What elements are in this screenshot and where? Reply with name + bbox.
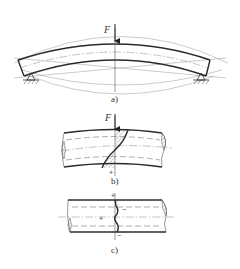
sign-plus-middle: + xyxy=(99,215,103,222)
guide-arc xyxy=(14,37,228,64)
stress-hatch xyxy=(102,130,128,168)
segment-top-edge xyxy=(64,130,162,134)
inner-line xyxy=(66,137,160,141)
panel-label-a: a) xyxy=(111,94,118,104)
sign-minus-right: − xyxy=(122,206,126,213)
break-hatch-right xyxy=(162,200,167,216)
guide-arc xyxy=(22,70,222,85)
panel-label-b: b) xyxy=(111,176,119,186)
force-label: F xyxy=(103,24,111,35)
panel-b: F + b) xyxy=(62,112,172,186)
force-label: F xyxy=(104,112,112,123)
sign-plus: + xyxy=(109,169,113,176)
panel-a: F a) xyxy=(14,24,228,104)
panel-c: + − + − c) xyxy=(58,192,176,255)
break-hatch-right xyxy=(161,133,165,150)
break-hatch-left xyxy=(68,218,72,232)
sign-minus-bottom: − xyxy=(117,232,121,239)
sign-plus-top: + xyxy=(111,192,115,199)
panel-label-c: c) xyxy=(111,245,118,255)
beam-left-end xyxy=(18,60,24,76)
beam-bending-diagram: F a) xyxy=(0,0,240,269)
